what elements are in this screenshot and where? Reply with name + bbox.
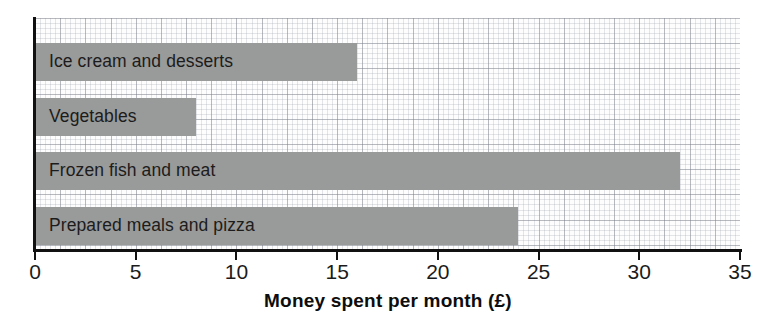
bar-label-0: Ice cream and desserts: [35, 53, 233, 71]
bar-2: Frozen fish and meat: [35, 152, 680, 190]
x-tick-label-0: 0: [29, 261, 41, 282]
x-tick-mark-20: [437, 249, 439, 260]
bar-label-2: Frozen fish and meat: [35, 162, 215, 180]
x-tick-mark-10: [235, 249, 237, 260]
x-tick-label-35: 35: [728, 261, 751, 282]
bar-label-1: Vegetables: [35, 108, 137, 126]
x-axis-title: Money spent per month (£): [0, 290, 776, 312]
x-tick-label-10: 10: [225, 261, 248, 282]
x-tick-mark-5: [135, 249, 137, 260]
bar-1: Vegetables: [35, 98, 196, 136]
bar-label-3: Prepared meals and pizza: [35, 217, 255, 235]
x-tick-mark-0: [34, 249, 36, 260]
x-tick-mark-35: [739, 249, 741, 260]
bar-0: Ice cream and desserts: [35, 43, 357, 81]
x-tick-mark-30: [638, 249, 640, 260]
y-axis-line: [33, 17, 36, 251]
x-tick-mark-15: [336, 249, 338, 260]
x-tick-label-25: 25: [527, 261, 550, 282]
x-tick-label-20: 20: [426, 261, 449, 282]
x-axis-line: [33, 249, 742, 252]
bar-3: Prepared meals and pizza: [35, 207, 518, 245]
x-tick-label-5: 5: [130, 261, 142, 282]
x-tick-mark-25: [538, 249, 540, 260]
x-tick-label-30: 30: [628, 261, 651, 282]
plot-area: Ice cream and desserts Vegetables Frozen…: [35, 18, 740, 250]
bar-chart: Ice cream and desserts Vegetables Frozen…: [0, 0, 776, 320]
x-tick-label-15: 15: [325, 261, 348, 282]
